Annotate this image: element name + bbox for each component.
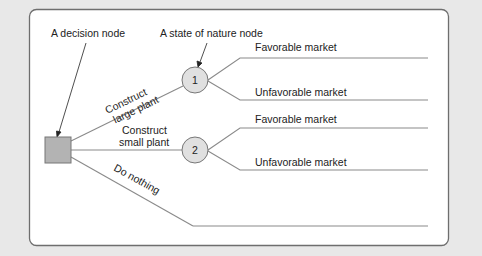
- callout-state-of-nature-node: A state of nature node: [160, 27, 263, 39]
- chance-node-2: 2: [182, 137, 208, 163]
- alt-small-line1: Construct: [122, 124, 167, 136]
- alt-small-line2: small plant: [119, 136, 169, 148]
- outcome-2-favorable: Favorable market: [255, 113, 337, 125]
- decision-node-square: [45, 137, 71, 163]
- outcome-1-unfavorable: Unfavorable market: [255, 86, 347, 98]
- outcome-1-favorable: Favorable market: [255, 41, 337, 53]
- chance-node-1: 1: [182, 67, 208, 93]
- chance-node-2-label: 2: [192, 144, 198, 156]
- callout-decision-node: A decision node: [51, 27, 125, 39]
- outcome-2-unfavorable: Unfavorable market: [255, 156, 347, 168]
- chance-node-1-label: 1: [192, 74, 198, 86]
- decision-tree-diagram: A decision node A state of nature node 1…: [0, 0, 482, 256]
